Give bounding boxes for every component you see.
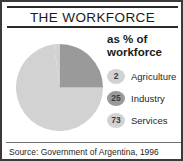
legend: as % of workforce 2 Agriculture 25 Indus…	[107, 33, 183, 131]
legend-item-industry: 25 Industry	[107, 87, 183, 109]
legend-heading-line-1: as % of	[107, 33, 147, 45]
pie-chart-svg	[16, 44, 103, 131]
legend-label-agriculture: Agriculture	[131, 71, 176, 82]
pie-slice-industry	[60, 44, 104, 88]
legend-label-industry: Industry	[131, 93, 165, 104]
legend-item-agriculture: 2 Agriculture	[107, 65, 183, 87]
legend-badge-agriculture: 2	[107, 69, 125, 84]
legend-badge-industry: 25	[107, 91, 125, 106]
legend-heading: as % of workforce	[107, 33, 183, 59]
source-divider	[6, 142, 181, 143]
source-note: Source: Government of Argentina, 1996	[9, 147, 159, 157]
title-band: THE WORKFORCE	[7, 6, 178, 28]
legend-badge-services: 73	[107, 113, 125, 128]
chart-body: as % of workforce 2 Agriculture 25 Indus…	[2, 30, 183, 141]
workforce-infographic: THE WORKFORCE as % of workforce 2 Agricu…	[0, 0, 183, 161]
legend-heading-line-2: workforce	[107, 46, 183, 59]
legend-label-services: Services	[131, 115, 167, 126]
legend-item-services: 73 Services	[107, 109, 183, 131]
pie-chart	[16, 44, 103, 131]
page-title: THE WORKFORCE	[30, 10, 155, 25]
